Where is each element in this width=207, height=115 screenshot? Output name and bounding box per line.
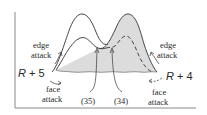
left-edge-label-1: edge [33, 40, 49, 50]
energy-profile-diagram: edge attack R + 5 face attack edge attac… [0, 0, 207, 115]
left-face-label-1: face [46, 84, 60, 94]
right-face-label-1: face [152, 87, 166, 97]
right-face-label-2: attack [148, 97, 169, 107]
left-face-label-2: attack [42, 94, 63, 104]
right-edge-label-2: attack [157, 50, 178, 60]
left-reactant-label: R + 5 [18, 67, 45, 79]
right-face-arrow [150, 78, 162, 81]
right-edge-label-1: edge [160, 40, 176, 50]
intermediate-34-label: (34) [114, 96, 128, 106]
right-reactant-label: R + 4 [166, 70, 193, 82]
left-edge-label-2: attack [31, 50, 52, 60]
right-reactant-rest: + 4 [174, 70, 193, 82]
intermediate-35-label: (35) [81, 96, 95, 106]
left-reactant-rest: + 5 [26, 67, 45, 79]
